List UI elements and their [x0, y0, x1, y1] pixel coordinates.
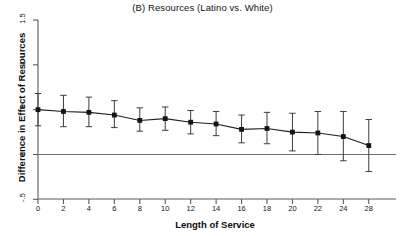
- x-tick-label: 28: [359, 204, 379, 213]
- chart-figure: (B) Resources (Latino vs. White) Differe…: [0, 0, 405, 236]
- series-line: [38, 110, 369, 146]
- x-tick-label: 8: [130, 204, 150, 213]
- y-tick-label: 1.5: [18, 8, 27, 28]
- y-tick-label: -.5: [18, 188, 27, 208]
- x-tick-label: 6: [104, 204, 124, 213]
- plot-area: [0, 0, 405, 236]
- x-tick-label: 10: [155, 204, 175, 213]
- x-tick-label: 24: [333, 204, 353, 213]
- x-tick-label: 22: [308, 204, 328, 213]
- y-tick-label: 1: [18, 53, 27, 73]
- x-tick-label: 12: [181, 204, 201, 213]
- x-tick-label: 14: [206, 204, 226, 213]
- x-tick-label: 16: [232, 204, 252, 213]
- y-tick-label: .5: [18, 98, 27, 118]
- error-bars: [35, 94, 372, 172]
- x-tick-label: 20: [282, 204, 302, 213]
- x-tick-label: 2: [53, 204, 73, 213]
- x-tick-label: 0: [28, 204, 48, 213]
- x-tick-label: 18: [257, 204, 277, 213]
- x-tick-label: 4: [79, 204, 99, 213]
- data-point-markers: [36, 107, 372, 148]
- y-tick-label: 0: [18, 143, 27, 163]
